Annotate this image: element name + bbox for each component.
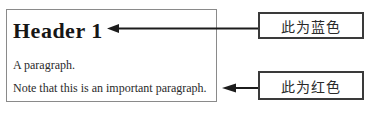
important-paragraph-text: Note that this is an important paragraph… bbox=[13, 81, 207, 96]
header-1-text: Header 1 bbox=[13, 18, 103, 44]
callout-box-red: 此为红色 bbox=[258, 71, 364, 100]
paragraph-text: A paragraph. bbox=[13, 58, 75, 73]
left-arrowhead-icon bbox=[222, 84, 236, 93]
document-preview-box: Header 1 A paragraph. Note that this is … bbox=[6, 9, 217, 102]
callout-box-blue: 此为蓝色 bbox=[258, 12, 364, 39]
red-callout-arrow bbox=[222, 84, 258, 93]
callout-blue-label: 此为蓝色 bbox=[281, 16, 341, 36]
callout-red-label: 此为红色 bbox=[281, 76, 341, 96]
figure-canvas: Header 1 A paragraph. Note that this is … bbox=[0, 0, 372, 113]
